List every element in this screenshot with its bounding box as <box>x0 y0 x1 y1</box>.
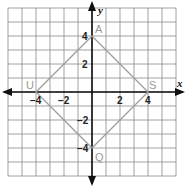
x-tick-neg2: −2 <box>58 95 70 106</box>
coordinate-plane: x y −4 −2 2 4 4 2 −2 −4 A S Q U <box>0 0 187 191</box>
x-axis-right-arrow-icon <box>175 88 185 96</box>
x-tick-2: 2 <box>117 95 123 106</box>
x-axis-label: x <box>176 77 183 89</box>
y-tick-2: 2 <box>82 59 88 70</box>
vertex-label-U: U <box>26 79 34 91</box>
y-tick-4: 4 <box>82 31 88 42</box>
y-tick-neg4: −4 <box>77 143 89 154</box>
y-axis-down-arrow-icon <box>88 176 96 186</box>
y-axis-label: y <box>96 4 103 16</box>
x-tick-4: 4 <box>145 95 151 106</box>
y-tick-neg2: −2 <box>77 115 89 126</box>
vertex-label-Q: Q <box>95 151 104 163</box>
vertex-label-A: A <box>95 23 103 35</box>
x-tick-neg4: −4 <box>30 95 42 106</box>
vertex-labels: A S Q U <box>26 23 156 163</box>
vertex-label-S: S <box>149 79 156 91</box>
y-axis-up-arrow-icon <box>88 1 96 11</box>
x-axis-left-arrow-icon <box>2 88 12 96</box>
